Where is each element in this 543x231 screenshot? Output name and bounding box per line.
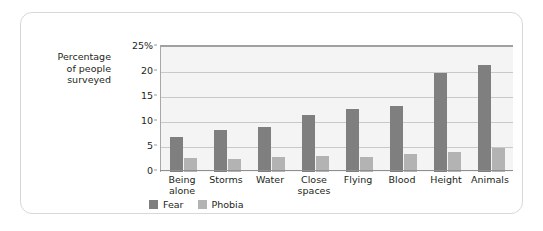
- x-tick-label-water: Water: [248, 174, 292, 185]
- chart-card: Percentage of people surveyed 0510152025…: [20, 12, 523, 214]
- y-tick-label-0: 0: [147, 165, 153, 176]
- x-tick-label-animals: Animals: [468, 174, 512, 185]
- x-tick-label-line: Water: [248, 174, 292, 185]
- bar-group: [161, 47, 205, 172]
- bar-fear-being-alone[interactable]: [170, 137, 183, 172]
- bar-fear-flying[interactable]: [346, 109, 359, 173]
- x-tick-label-line: Animals: [468, 174, 512, 185]
- x-tick-label-being-alone: Beingalone: [160, 174, 204, 196]
- y-tick-mark-5: [154, 145, 157, 146]
- y-tick-label-5: 5: [147, 140, 153, 151]
- x-tick-label-blood: Blood: [380, 174, 424, 185]
- legend-swatch-fear: [149, 200, 158, 209]
- y-tick-label-10: 10: [141, 115, 153, 126]
- plot-area: [160, 45, 513, 172]
- legend-label-fear: Fear: [163, 199, 184, 210]
- bar-fear-height[interactable]: [434, 73, 447, 172]
- bar-group: [381, 47, 425, 172]
- x-tick-label-line: Being: [160, 174, 204, 185]
- bar-fear-water[interactable]: [258, 127, 271, 172]
- x-tick-label-flying: Flying: [336, 174, 380, 185]
- legend-swatch-phobia: [198, 200, 207, 209]
- bar-group: [205, 47, 249, 172]
- x-tick-label-line: Close: [292, 174, 336, 185]
- x-tick-label-line: Height: [424, 174, 468, 185]
- bar-group: [249, 47, 293, 172]
- x-tick-label-line: spaces: [292, 185, 336, 196]
- bar-group: [293, 47, 337, 172]
- y-axis-title-line-3: surveyed: [33, 74, 111, 86]
- bar-fear-blood[interactable]: [390, 106, 403, 172]
- y-tick-label-25: 25%: [132, 40, 153, 51]
- y-tick-mark-15: [154, 95, 157, 96]
- y-axis-title-line-2: of people: [33, 63, 111, 75]
- x-axis-category-labels: BeingaloneStormsWaterClosespacesFlyingBl…: [160, 174, 512, 200]
- bar-fear-storms[interactable]: [214, 130, 227, 172]
- y-tick-mark-25: [154, 45, 157, 46]
- bar-phobia-height[interactable]: [448, 152, 461, 173]
- x-tick-label-line: alone: [160, 185, 204, 196]
- chart-legend: Fear Phobia: [149, 199, 244, 210]
- y-axis-title: Percentage of people surveyed: [33, 51, 111, 86]
- bar-group: [337, 47, 381, 172]
- legend-item-phobia: Phobia: [198, 199, 244, 210]
- bar-group: [425, 47, 469, 172]
- x-tick-label-storms: Storms: [204, 174, 248, 185]
- legend-label-phobia: Phobia: [212, 199, 244, 210]
- y-tick-label-20: 20: [141, 65, 153, 76]
- x-tick-label-close-spaces: Closespaces: [292, 174, 336, 196]
- y-axis-ticks: 0510152025%: [129, 33, 157, 170]
- x-tick-label-line: Flying: [336, 174, 380, 185]
- y-tick-mark-10: [154, 120, 157, 121]
- bar-fear-animals[interactable]: [478, 65, 491, 172]
- y-tick-mark-20: [154, 70, 157, 71]
- chart-plot-wrapper: 0510152025% BeingaloneStormsWaterClosesp…: [129, 33, 519, 213]
- y-tick-mark-0: [154, 170, 157, 171]
- x-tick-label-line: Blood: [380, 174, 424, 185]
- bar-fear-close-spaces[interactable]: [302, 115, 315, 173]
- x-axis-line: [160, 170, 513, 171]
- y-tick-label-15: 15: [141, 90, 153, 101]
- bar-phobia-animals[interactable]: [492, 148, 505, 172]
- x-tick-label-line: Storms: [204, 174, 248, 185]
- x-tick-label-height: Height: [424, 174, 468, 185]
- y-axis-title-line-1: Percentage: [33, 51, 111, 63]
- bar-group: [469, 47, 513, 172]
- legend-item-fear: Fear: [149, 199, 184, 210]
